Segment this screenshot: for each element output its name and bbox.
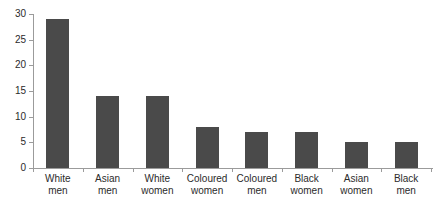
bar bbox=[245, 132, 268, 168]
bar bbox=[345, 142, 368, 168]
category-label-line1: White bbox=[33, 173, 83, 185]
y-axis-tick-label: 20 bbox=[0, 60, 26, 70]
x-axis-tick-mark bbox=[232, 169, 233, 172]
y-axis-tick-label-text: 5 bbox=[2, 137, 26, 147]
y-axis-tick-label-text: 20 bbox=[2, 60, 26, 70]
category-label-line2: women bbox=[182, 185, 232, 197]
category-label-line2: men bbox=[83, 185, 133, 197]
bar bbox=[196, 127, 219, 168]
y-axis-tick-label: 0 bbox=[0, 163, 26, 173]
y-axis-tick-label-text: 0 bbox=[2, 163, 26, 173]
category-label-line2: men bbox=[381, 185, 431, 197]
y-axis-tick-label: 15 bbox=[0, 86, 26, 96]
x-axis-tick-mark bbox=[332, 169, 333, 172]
category-label: Whitemen bbox=[33, 173, 83, 197]
category-label-line1: White bbox=[133, 173, 183, 185]
category-label-line2: men bbox=[232, 185, 282, 197]
bar bbox=[146, 96, 169, 168]
bars-group bbox=[33, 14, 431, 168]
category-label: Blackmen bbox=[381, 173, 431, 197]
x-axis-tick-mark bbox=[182, 169, 183, 172]
category-label-line1: Coloured bbox=[182, 173, 232, 185]
y-axis-tick-label: 10 bbox=[0, 112, 26, 122]
category-label-line2: men bbox=[33, 185, 83, 197]
y-axis-tick-label-text: 10 bbox=[2, 112, 26, 122]
category-label-line1: Coloured bbox=[232, 173, 282, 185]
x-axis-tick-mark bbox=[282, 169, 283, 172]
y-axis-tick-label-text: 15 bbox=[2, 86, 26, 96]
x-axis-tick-mark bbox=[33, 169, 34, 172]
category-label-line1: Asian bbox=[83, 173, 133, 185]
bar-chart: 051015202530 WhitemenAsianmenWhitewomenC… bbox=[0, 0, 441, 217]
category-label: Asianmen bbox=[83, 173, 133, 197]
category-label-line1: Asian bbox=[332, 173, 382, 185]
y-axis-tick-label: 30 bbox=[0, 9, 26, 19]
x-axis-tick-mark bbox=[381, 169, 382, 172]
category-label-line2: women bbox=[133, 185, 183, 197]
category-label-line1: Black bbox=[282, 173, 332, 185]
y-axis-tick-label: 5 bbox=[0, 137, 26, 147]
category-label-line2: women bbox=[332, 185, 382, 197]
x-axis-line bbox=[33, 168, 433, 169]
bar bbox=[96, 96, 119, 168]
x-axis-tick-mark bbox=[133, 169, 134, 172]
category-label: Whitewomen bbox=[133, 173, 183, 197]
y-axis-tick-label-text: 25 bbox=[2, 35, 26, 45]
category-label: Colouredwomen bbox=[182, 173, 232, 197]
y-axis-tick-label-text: 30 bbox=[2, 9, 26, 19]
category-label: Colouredmen bbox=[232, 173, 282, 197]
y-axis-tick-label: 25 bbox=[0, 35, 26, 45]
x-axis-tick-mark bbox=[431, 169, 432, 172]
category-label: Asianwomen bbox=[332, 173, 382, 197]
category-label-line2: women bbox=[282, 185, 332, 197]
bar bbox=[295, 132, 318, 168]
bar bbox=[46, 19, 69, 168]
category-label-line1: Black bbox=[381, 173, 431, 185]
category-label: Blackwomen bbox=[282, 173, 332, 197]
x-axis-tick-mark bbox=[83, 169, 84, 172]
bar bbox=[395, 142, 418, 168]
